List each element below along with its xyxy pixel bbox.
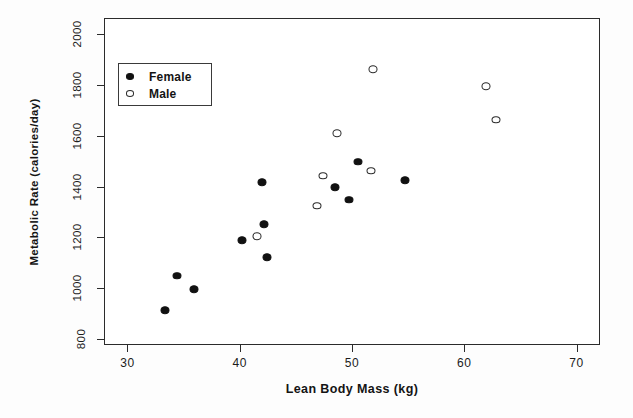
data-point-female bbox=[237, 237, 246, 245]
data-point-female bbox=[189, 286, 198, 294]
x-axis-tick bbox=[352, 344, 353, 352]
y-axis-tick-label: 1400 bbox=[71, 173, 83, 200]
data-point-male bbox=[313, 202, 322, 210]
legend: Female Male bbox=[118, 63, 212, 106]
data-point-male bbox=[491, 116, 500, 124]
y-axis-tick-label: 1000 bbox=[71, 275, 83, 302]
legend-marker-open-circle-icon bbox=[126, 90, 134, 97]
data-point-female bbox=[258, 178, 267, 186]
legend-label-male: Male bbox=[149, 87, 176, 101]
x-axis-tick bbox=[577, 344, 578, 352]
data-point-male bbox=[252, 233, 261, 241]
data-point-male bbox=[369, 66, 378, 74]
y-axis-tick bbox=[97, 34, 105, 35]
y-axis-tick bbox=[97, 288, 105, 289]
y-axis-tick bbox=[97, 136, 105, 137]
legend-entry-female: Female bbox=[119, 68, 211, 85]
y-axis-tick bbox=[97, 187, 105, 188]
data-point-female bbox=[260, 220, 269, 228]
x-axis-tick-label: 40 bbox=[233, 356, 247, 370]
x-axis-tick-label: 60 bbox=[457, 356, 471, 370]
y-axis-tick-label: 1600 bbox=[71, 122, 83, 149]
data-point-female bbox=[344, 196, 353, 204]
y-axis-tick-label: 1800 bbox=[71, 71, 83, 98]
y-axis-tick-label: 800 bbox=[75, 329, 87, 349]
data-point-male bbox=[318, 172, 327, 180]
y-axis-tick-label: 1200 bbox=[71, 224, 83, 251]
data-point-female bbox=[262, 253, 271, 261]
x-axis-tick-label: 50 bbox=[345, 356, 359, 370]
x-axis-tick bbox=[240, 344, 241, 352]
y-axis-title-text: Metabolic Rate (calories/day) bbox=[28, 98, 40, 265]
legend-marker-filled-circle-icon bbox=[126, 73, 134, 80]
x-axis-tick-label: 70 bbox=[569, 356, 583, 370]
data-point-male bbox=[367, 167, 376, 175]
data-point-female bbox=[331, 184, 340, 192]
legend-label-female: Female bbox=[149, 70, 192, 84]
y-axis-title: Metabolic Rate (calories/day) bbox=[26, 18, 42, 345]
x-axis-tick-label: 30 bbox=[120, 356, 134, 370]
y-axis-tick bbox=[97, 85, 105, 86]
legend-entry-male: Male bbox=[119, 85, 211, 102]
y-axis-tick bbox=[97, 237, 105, 238]
x-axis-tick bbox=[464, 344, 465, 352]
data-point-female bbox=[160, 307, 169, 315]
data-point-male bbox=[481, 82, 490, 90]
y-axis-tick-label: 2000 bbox=[71, 21, 83, 48]
x-axis-tick bbox=[127, 344, 128, 352]
data-point-female bbox=[172, 272, 181, 280]
plot-frame: Female Male 8001000120014001600180020003… bbox=[104, 18, 600, 345]
scatter-plot-figure: Metabolic Rate (calories/day) Female Mal… bbox=[0, 0, 633, 418]
data-point-female bbox=[353, 158, 362, 166]
data-point-female bbox=[400, 176, 409, 184]
x-axis-title: Lean Body Mass (kg) bbox=[104, 382, 600, 396]
data-point-male bbox=[333, 130, 342, 138]
y-axis-tick bbox=[97, 339, 105, 340]
